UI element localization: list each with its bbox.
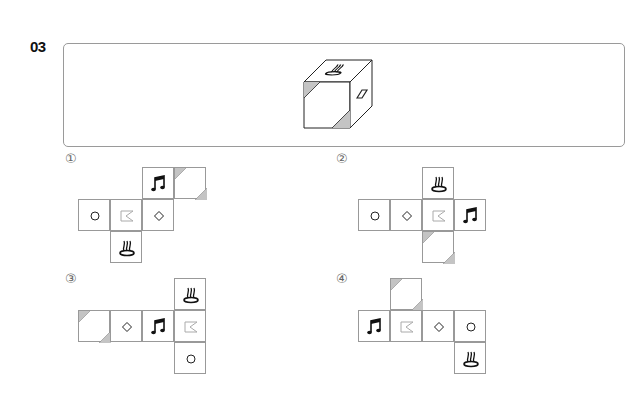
net-face-stripe <box>174 167 206 199</box>
circle-icon <box>467 323 475 331</box>
flag-icon <box>121 211 133 221</box>
net-face-music <box>358 310 390 342</box>
option-label: ④ <box>336 271 348 286</box>
option-label: ② <box>336 151 348 166</box>
diamond-icon <box>435 323 444 332</box>
net-face-circle <box>454 310 486 342</box>
net-face-circle <box>78 199 110 231</box>
net-face-spa <box>110 231 142 263</box>
net-face-flag <box>422 199 454 231</box>
spa-icon <box>184 288 198 303</box>
net-face-music <box>142 310 174 342</box>
net-face-music <box>454 199 486 231</box>
net-face-diamond <box>390 199 422 231</box>
music-icon <box>367 319 381 334</box>
net-face-diamond <box>142 199 174 231</box>
spa-icon <box>464 352 478 367</box>
flag-icon <box>433 211 445 221</box>
flag-icon <box>401 322 413 332</box>
net-face-spa <box>422 167 454 199</box>
net-face-circle <box>358 199 390 231</box>
net-face-flag <box>110 199 142 231</box>
diagonal-stripe-icon <box>391 279 423 311</box>
option-label: ① <box>65 151 77 166</box>
net-face-spa <box>174 278 206 310</box>
net-face-stripe <box>390 278 422 310</box>
net-face-diamond <box>422 310 454 342</box>
option-label: ③ <box>65 271 77 286</box>
net-face-flag <box>390 310 422 342</box>
music-icon <box>151 319 165 334</box>
circle-icon <box>91 212 99 220</box>
spa-icon <box>432 177 446 192</box>
net-face-music <box>142 167 174 199</box>
net-face-circle <box>174 342 206 374</box>
net-face-flag <box>174 310 206 342</box>
circle-icon <box>371 212 379 220</box>
diamond-icon <box>123 323 132 332</box>
music-icon <box>151 176 165 191</box>
diagonal-stripe-icon <box>175 168 207 200</box>
net-face-stripe <box>422 231 454 263</box>
music-icon <box>463 208 477 223</box>
question-number: 03 <box>30 38 46 55</box>
diamond-icon <box>403 212 412 221</box>
diagonal-stripe-icon <box>423 232 455 264</box>
net-face-spa <box>454 342 486 374</box>
flag-icon <box>185 322 197 332</box>
spa-icon <box>120 241 134 256</box>
diagonal-stripe-icon <box>79 311 111 343</box>
net-face-diamond <box>110 310 142 342</box>
circle-icon <box>187 355 195 363</box>
diamond-icon <box>155 212 164 221</box>
net-face-stripe <box>78 310 110 342</box>
cube-figure <box>300 52 380 132</box>
